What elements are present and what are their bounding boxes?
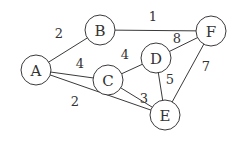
node-label: A — [30, 62, 42, 80]
edge-b-f — [100, 30, 211, 31]
graph-svg: 242143857 ABCDEF — [0, 0, 252, 141]
node-f: F — [196, 16, 226, 46]
node-a: A — [21, 55, 51, 85]
edge-weight-b-f: 1 — [149, 9, 157, 24]
node-label: E — [160, 107, 171, 125]
node-b: B — [85, 15, 115, 45]
node-label: D — [150, 50, 162, 68]
node-d: D — [141, 43, 171, 73]
edges-layer — [36, 30, 211, 115]
edge-weight-d-e: 5 — [166, 72, 174, 87]
edge-weight-f-e: 7 — [202, 59, 210, 74]
node-label: F — [206, 23, 216, 41]
edge-weight-a-e: 2 — [71, 94, 79, 109]
node-label: B — [94, 22, 105, 40]
edge-weight-a-b: 2 — [55, 26, 63, 41]
node-label: C — [102, 72, 113, 90]
edge-weight-c-d: 4 — [121, 47, 129, 62]
edge-weight-c-e: 3 — [140, 91, 148, 106]
node-c: C — [93, 65, 123, 95]
edge-weight-d-f: 8 — [173, 31, 181, 46]
graph-diagram: 242143857 ABCDEF — [0, 0, 252, 141]
edge-weight-a-c: 4 — [76, 56, 84, 71]
edge-weights-layer: 242143857 — [55, 9, 210, 109]
node-e: E — [150, 100, 180, 130]
